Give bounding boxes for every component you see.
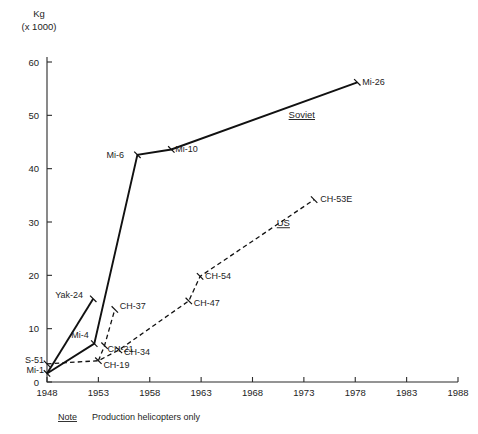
point-label-mi-4: Mi-4 (71, 330, 89, 340)
point-label-yak-24: Yak-24 (55, 290, 83, 300)
group-label-us: US (277, 217, 290, 228)
y-tick-label: 40 (28, 163, 39, 174)
x-tick-label: 1963 (191, 387, 212, 398)
chart-point-labels: Mi-1Mi-4Mi-6Mi-10Mi-26Yak-24S-51CH-19CH-… (25, 77, 385, 376)
point-label-ch-21: CH-21 (108, 344, 134, 354)
point-label-s-51: S-51 (25, 355, 44, 365)
x-tick-label: 1973 (293, 387, 314, 398)
note-label: Note (58, 412, 77, 422)
note-body-text: Production helicopters only (92, 412, 201, 422)
y-axis-title-line2: (x 1000) (22, 21, 57, 32)
y-tick-label: 20 (28, 270, 39, 281)
y-tick-label: 50 (28, 110, 39, 121)
y-tick-label: 60 (28, 57, 39, 68)
point-label-mi-1: Mi-1 (27, 365, 45, 375)
y-tick-label: 0 (34, 377, 39, 388)
y-tick-label: 10 (28, 323, 39, 334)
data-point-marker (197, 273, 203, 279)
point-label-mi-26: Mi-26 (362, 77, 385, 87)
chart-series-layer (47, 82, 357, 373)
group-label-soviet: Soviet (289, 109, 316, 120)
y-tick-label: 30 (28, 217, 39, 228)
point-label-ch-54: CH-54 (205, 271, 231, 281)
x-tick-label: 1988 (447, 387, 468, 398)
data-point-marker (311, 196, 317, 202)
x-tick-label: 1968 (242, 387, 263, 398)
chart-annotations: SovietUS (277, 109, 316, 228)
x-tick-label: 1958 (139, 387, 160, 398)
x-tick-label: 1948 (36, 387, 57, 398)
point-label-mi-6: Mi-6 (106, 150, 124, 160)
line-chart: 0102030405060194819531958196319681973197… (0, 0, 478, 434)
point-label-ch-19: CH-19 (103, 360, 129, 370)
y-axis-title-line1: Kg (33, 8, 45, 19)
point-label-ch-47: CH-47 (194, 298, 220, 308)
x-tick-label: 1983 (396, 387, 417, 398)
chart-container: 0102030405060194819531958196319681973197… (0, 0, 478, 434)
data-point-marker (112, 306, 118, 312)
point-label-mi-10: Mi-10 (175, 144, 198, 154)
axis-lines (47, 57, 458, 382)
series-line-soviet (47, 82, 357, 373)
x-tick-label: 1953 (88, 387, 109, 398)
point-label-ch-37: CH-37 (120, 301, 146, 311)
point-label-ch-53e: CH-53E (320, 194, 352, 204)
x-tick-label: 1978 (345, 387, 366, 398)
chart-axes: 0102030405060194819531958196319681973197… (28, 57, 468, 399)
